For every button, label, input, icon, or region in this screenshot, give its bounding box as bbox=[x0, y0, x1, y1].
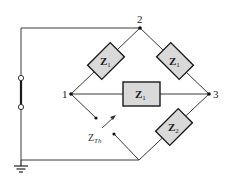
node-3-label: 3 bbox=[213, 88, 219, 100]
circuit-diagram: Z1 Z1 Z1 Z2 1 2 3 ZTh bbox=[0, 0, 232, 184]
impedance-z1-middle: Z1 bbox=[123, 82, 160, 106]
node-3-dot bbox=[207, 92, 211, 96]
thevenin-arrow-icon bbox=[102, 115, 116, 128]
impedance-z2: Z2 bbox=[156, 109, 193, 146]
ground-icon bbox=[14, 160, 28, 172]
node-2-label: 2 bbox=[137, 13, 143, 25]
terminal-a-dot bbox=[94, 116, 97, 119]
terminal-b-dot bbox=[112, 132, 115, 135]
node-1-label: 1 bbox=[62, 88, 68, 100]
node-2-dot bbox=[138, 26, 142, 30]
thevenin-label: ZTh bbox=[88, 132, 102, 145]
source-terminals bbox=[18, 75, 23, 109]
wire-bottom-terminal bbox=[114, 134, 139, 160]
wire-1-terminal bbox=[71, 94, 96, 118]
node-1-dot bbox=[69, 92, 73, 96]
